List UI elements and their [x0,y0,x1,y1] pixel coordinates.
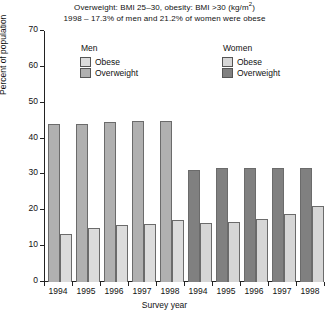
x-tick-label: 1994 [44,286,72,296]
chart-page: Overweight: BMI 25–30, obesity: BMI >30 … [0,0,329,319]
y-tick-label: 50 [29,96,38,106]
x-tick-label: 1997 [268,286,296,296]
x-tick-label: 1995 [72,286,100,296]
bar-men-obese-1995 [88,228,100,282]
bar-women-overweight-1996 [244,168,256,282]
y-tick-mark [40,209,44,210]
y-tick-mark [40,245,44,246]
y-tick-mark [40,138,44,139]
bar-men-overweight-1996 [104,122,116,282]
bar-men-overweight-1998 [160,121,172,282]
y-tick: 50 [44,102,48,103]
y-axis-title: Percent of population [0,15,8,95]
x-tick-label: 1995 [212,286,240,296]
x-tick-label: 1997 [128,286,156,296]
chart-subtitle: 1998 – 17.3% of men and 21.2% of women w… [0,13,329,24]
y-tick-mark [40,66,44,67]
y-tick-label: 10 [29,239,38,249]
x-tick-label: 1994 [184,286,212,296]
x-tick-label: 1998 [156,286,184,296]
bar-men-obese-1994 [60,234,72,282]
y-tick: 60 [44,66,48,67]
bar-women-overweight-1995 [216,168,228,282]
y-tick-mark [40,30,44,31]
y-tick-label: 40 [29,132,38,142]
chart-title-line-1-suffix: ) [252,3,255,12]
bar-men-overweight-1997 [132,121,144,282]
y-tick-mark [40,102,44,103]
bar-men-obese-1998 [172,220,184,282]
y-tick-mark [40,173,44,174]
bar-men-obese-1997 [144,224,156,282]
bar-women-obese-1995 [228,222,240,282]
y-tick: 70 [44,30,48,31]
bar-women-obese-1998 [312,206,324,282]
y-tick-label: 70 [29,24,38,34]
x-axis-title: Survey year [0,300,329,310]
y-tick-label: 30 [29,167,38,177]
bar-women-overweight-1994 [188,170,200,282]
bar-men-overweight-1994 [48,124,60,282]
chart-title-line-1-text: Overweight: BMI 25–30, obesity: BMI >30 … [74,3,249,12]
x-tick-label: 1996 [100,286,128,296]
y-tick-label: 20 [29,203,38,213]
bar-men-obese-1996 [116,225,128,282]
bar-women-overweight-1998 [300,168,312,282]
bar-women-overweight-1997 [272,168,284,282]
bar-women-obese-1994 [200,223,212,282]
plot-area: 010203040506070 199419951996199719981994… [44,31,324,282]
x-tick-mark [324,282,325,286]
x-tick-label: 1996 [240,286,268,296]
bar-women-obese-1997 [284,214,296,282]
bar-women-obese-1996 [256,219,268,282]
chart-title-line-1: Overweight: BMI 25–30, obesity: BMI >30 … [0,2,329,13]
y-tick-label: 60 [29,60,38,70]
chart-title-block: Overweight: BMI 25–30, obesity: BMI >30 … [0,2,329,24]
bar-men-overweight-1995 [76,124,88,282]
x-tick-label: 1998 [296,286,324,296]
y-tick-label: 0 [33,275,38,285]
